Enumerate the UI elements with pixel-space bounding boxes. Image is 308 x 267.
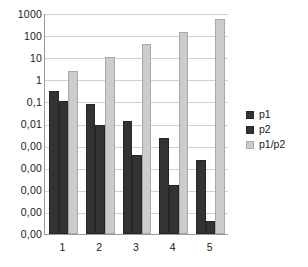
- legend-swatch-icon: [246, 111, 254, 119]
- y-axis-tick-label: 10: [0, 53, 42, 64]
- bar-p2-cat-4: [169, 185, 179, 234]
- bar-p1-cat-4: [159, 138, 169, 234]
- y-axis-tick-label: 1: [0, 75, 42, 86]
- legend-label: p1/p2: [259, 139, 285, 150]
- legend-label: p1: [259, 109, 271, 120]
- bar-p2-cat-2: [95, 125, 105, 234]
- legend-label: p2: [259, 124, 271, 135]
- legend-item-p2: p2: [246, 123, 304, 136]
- y-axis-tick-label: 0,00: [0, 185, 42, 196]
- legend-item-p1: p1: [246, 108, 304, 121]
- legend-swatch-icon: [246, 141, 254, 149]
- y-axis-tick-label: 100: [0, 31, 42, 42]
- x-axis-tick-label: 5: [191, 241, 228, 253]
- gridline: [45, 14, 228, 15]
- bar-p1-over-p2-cat-1: [68, 71, 78, 234]
- y-axis-tick-label: 0,1: [0, 97, 42, 108]
- y-axis-tick-label: 1000: [0, 9, 42, 20]
- bar-p1-cat-2: [86, 104, 96, 234]
- x-axis-tick-label: 4: [154, 241, 191, 253]
- x-axis-tick-label: 3: [118, 241, 155, 253]
- legend-item-p1-over-p2: p1/p2: [246, 138, 304, 151]
- bar-chart: 1000 100 10 1 0,1 0,01 0,00 0,00 0,00 0,…: [0, 0, 308, 267]
- plot-area: [44, 14, 228, 235]
- bar-p2-cat-3: [132, 155, 142, 234]
- gridline: [45, 36, 228, 37]
- bar-p1-over-p2-cat-5: [215, 19, 225, 234]
- bar-p1-cat-5: [196, 160, 206, 234]
- y-axis-tick-label: 0,01: [0, 119, 42, 130]
- bar-p2-cat-1: [59, 101, 69, 235]
- y-axis-tick-label: 0,00: [0, 141, 42, 152]
- bar-p1-over-p2-cat-4: [179, 32, 189, 234]
- x-axis-tick-label: 1: [44, 241, 81, 253]
- bar-p2-cat-5: [206, 221, 216, 234]
- gridline: [45, 58, 228, 59]
- bar-p1-over-p2-cat-2: [105, 57, 115, 234]
- y-axis-tick-label: 0,00: [0, 229, 42, 240]
- bar-p1-over-p2-cat-3: [142, 44, 152, 234]
- bar-p1-cat-1: [49, 91, 59, 234]
- y-axis-tick-label: 0,00: [0, 163, 42, 174]
- bar-p1-cat-3: [123, 121, 133, 234]
- legend-swatch-icon: [246, 126, 254, 134]
- x-axis-tick-label: 2: [81, 241, 118, 253]
- y-axis-tick-label: 0,00: [0, 207, 42, 218]
- chart-legend: p1 p2 p1/p2: [246, 108, 304, 153]
